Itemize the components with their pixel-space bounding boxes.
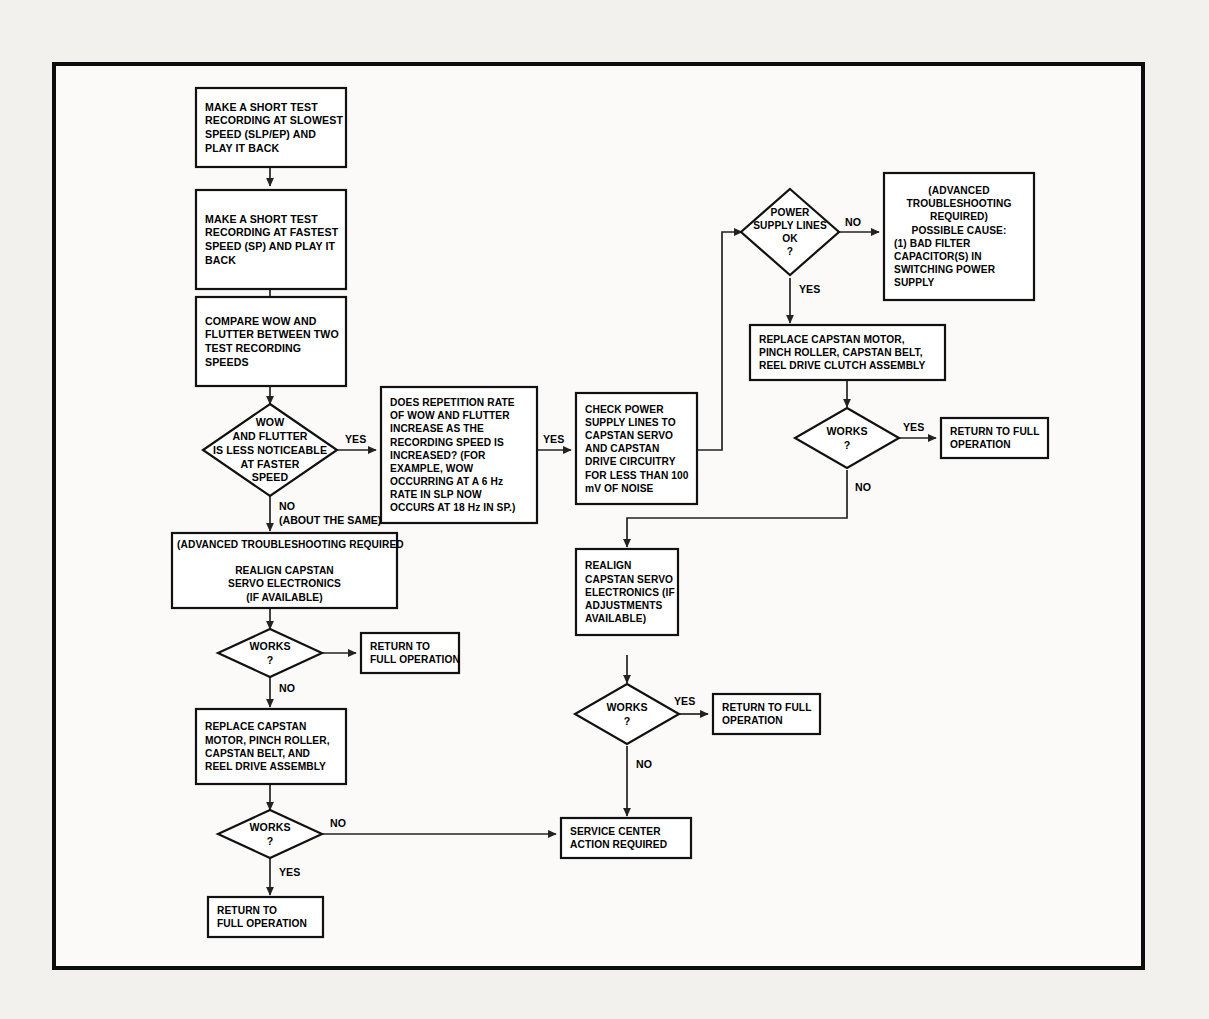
node-works-left-upper[interactable]: WORKS? [218, 629, 322, 677]
edge-label-works-mid-no: NO [636, 758, 652, 770]
node-return-full-topright[interactable]: RETURN TO FULLOPERATION [941, 418, 1048, 458]
edge-check-power-to-power-decision [697, 232, 742, 450]
flowchart-canvas: MAKE A SHORT TESTRECORDING AT SLOWESTSPE… [0, 0, 1209, 1019]
node-advanced-cause[interactable]: (ADVANCEDTROUBLESHOOTINGREQUIRED)POSSIBL… [884, 173, 1034, 300]
node-replace-capstan-clutch[interactable]: REPLACE CAPSTAN MOTOR,PINCH ROLLER, CAPS… [750, 325, 945, 380]
edge-label-power-yes: YES [799, 283, 820, 295]
node-wow-decision-text: WOWAND FLUTTERIS LESS NOTICEABLEAT FASTE… [213, 416, 327, 483]
node-return-full-left-upper[interactable]: RETURN TOFULL OPERATION [361, 633, 460, 673]
node-works-left-lower[interactable]: WORKS? [218, 810, 322, 858]
edge-label-wow-yes: YES [345, 433, 366, 445]
node-advanced-realign-left[interactable]: (ADVANCED TROUBLESHOOTING REQUIREDREALIG… [172, 533, 404, 608]
edge-label-works-topright-no: NO [855, 481, 871, 493]
node-wow-decision[interactable]: WOWAND FLUTTERIS LESS NOTICEABLEAT FASTE… [203, 404, 337, 496]
node-works-mid[interactable]: WORKS? [575, 684, 679, 744]
edge-label-works-left-lower-yes: YES [279, 866, 300, 878]
node-check-power[interactable]: CHECK POWERSUPPLY LINES TOCAPSTAN SERVOA… [576, 393, 697, 504]
edge-label-wow-no-note: (ABOUT THE SAME) [279, 514, 381, 526]
edge-label-works-topright-yes: YES [903, 421, 924, 433]
nodes-layer: MAKE A SHORT TESTRECORDING AT SLOWESTSPE… [172, 88, 1048, 937]
edge-label-works-mid-yes: YES [674, 695, 695, 707]
edge-label-works-left-lower-no: NO [330, 817, 346, 829]
node-repetition-rate[interactable]: DOES REPETITION RATEOF WOW AND FLUTTERIN… [381, 387, 537, 523]
node-realign-mid[interactable]: REALIGNCAPSTAN SERVOELECTRONICS (IFADJUS… [576, 549, 678, 635]
node-service-center[interactable]: SERVICE CENTERACTION REQUIRED [561, 818, 691, 858]
edge-label-wow-no: NO [279, 500, 295, 512]
edge-label-power-no: NO [845, 216, 861, 228]
node-replace-capstan-clutch-text: REPLACE CAPSTAN MOTOR,PINCH ROLLER, CAPS… [759, 334, 925, 371]
node-test-slowest[interactable]: MAKE A SHORT TESTRECORDING AT SLOWESTSPE… [196, 88, 346, 167]
edge-label-works-left-upper-no: NO [279, 682, 295, 694]
edges-layer [270, 167, 936, 895]
node-compare[interactable]: COMPARE WOW ANDFLUTTER BETWEEN TWOTEST R… [196, 297, 346, 386]
node-return-full-left-lower[interactable]: RETURN TOFULL OPERATION [208, 897, 323, 937]
node-test-fastest[interactable]: MAKE A SHORT TESTRECORDING AT FASTESTSPE… [196, 190, 346, 289]
node-power-ok-decision[interactable]: POWERSUPPLY LINESOK? [741, 189, 839, 275]
node-return-full-mid[interactable]: RETURN TO FULLOPERATION [713, 694, 820, 734]
node-replace-capstan-left[interactable]: REPLACE CAPSTANMOTOR, PINCH ROLLER,CAPST… [196, 709, 346, 784]
edge-label-repetition-yes: YES [543, 433, 564, 445]
diagram-sheet: MAKE A SHORT TESTRECORDING AT SLOWESTSPE… [0, 0, 1209, 1019]
node-works-topright[interactable]: WORKS? [795, 408, 899, 468]
